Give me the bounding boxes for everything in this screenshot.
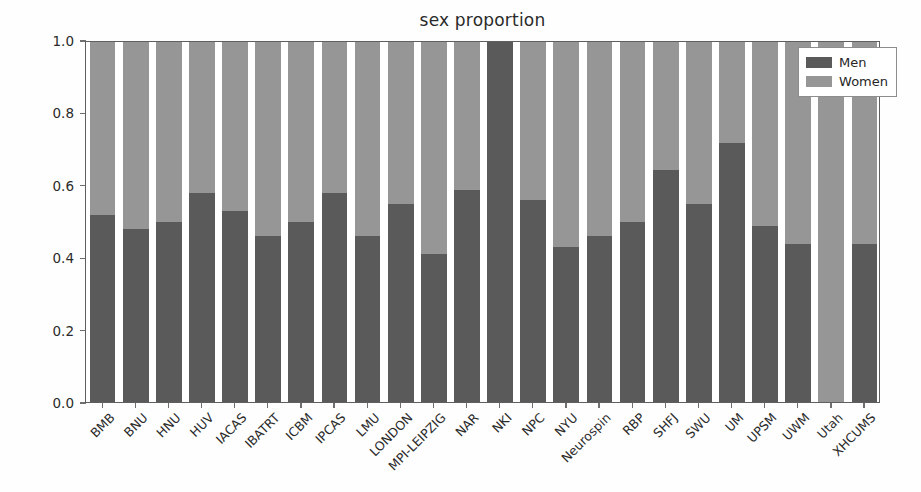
x-tick-mark-HNU xyxy=(168,403,169,408)
x-tick-mark-UM xyxy=(731,403,732,408)
x-tick-mark-UWM xyxy=(797,403,798,408)
x-tick-label-text: NKI xyxy=(489,410,515,436)
x-tick-label-text: HNU xyxy=(153,410,183,440)
x-tick-label-BNU: BNU xyxy=(121,410,151,440)
x-tick-mark-SHFJ xyxy=(665,403,666,408)
x-tick-label-SWU: SWU xyxy=(682,410,713,441)
legend-swatch-men-icon xyxy=(806,57,832,68)
x-tick-label-text: UM xyxy=(722,410,747,435)
legend-swatch-women-icon xyxy=(806,76,832,87)
figure-canvas: sex proportion 0.00.20.40.60.81.0 BMBBNU… xyxy=(0,0,921,492)
x-tick-mark-UPSM xyxy=(764,403,765,408)
x-tick-mark-IBATRT xyxy=(267,403,268,408)
legend-item-men: Men xyxy=(806,53,888,72)
x-tick-label-NPC: NPC xyxy=(519,410,548,439)
x-tick-label-text: UWM xyxy=(779,410,812,443)
x-tick-label-NKI: NKI xyxy=(489,410,515,436)
x-tick-mark-MPI-LEIPZIG xyxy=(433,403,434,408)
x-tick-mark-ICBM xyxy=(300,403,301,408)
x-tick-mark-LMU xyxy=(367,403,368,408)
x-tick-label-NAR: NAR xyxy=(452,410,481,439)
x-tick-label-text: BNU xyxy=(121,410,151,440)
x-tick-mark-NAR xyxy=(466,403,467,408)
x-tick-label-text: IPCAS xyxy=(313,410,349,446)
x-tick-label-UPSM: UPSM xyxy=(744,410,780,446)
x-tick-label-IBATRT: IBATRT xyxy=(242,410,283,451)
x-tick-label-text: ICBM xyxy=(283,410,316,443)
x-tick-label-LMU: LMU xyxy=(353,410,383,440)
x-tick-label-ICBM: ICBM xyxy=(283,410,316,443)
legend-item-women: Women xyxy=(806,72,888,91)
x-tick-mark-NPC xyxy=(532,403,533,408)
x-tick-mark-XHCUMS xyxy=(863,403,864,408)
x-tick-label-text: IBATRT xyxy=(242,410,283,451)
x-tick-mark-NYU xyxy=(565,403,566,408)
x-tick-label-text: UPSM xyxy=(744,410,780,446)
x-tick-label-text: SWU xyxy=(682,410,713,441)
x-tick-mark-IPCAS xyxy=(333,403,334,408)
x-tick-label-BMB: BMB xyxy=(87,410,117,440)
x-tick-mark-BNU xyxy=(135,403,136,408)
legend: Men Women xyxy=(798,47,897,97)
legend-label-men: Men xyxy=(839,56,866,69)
x-tick-label-text: SHFJ xyxy=(650,410,681,441)
x-tick-mark-HUV xyxy=(201,403,202,408)
x-tick-mark-RBP xyxy=(632,403,633,408)
x-tick-label-RBP: RBP xyxy=(619,410,647,438)
x-tick-label-text: BMB xyxy=(87,410,117,440)
x-tick-label-UWM: UWM xyxy=(779,410,812,443)
x-tick-label-HNU: HNU xyxy=(153,410,183,440)
x-axis: BMBBNUHNUHUVIACASIBATRTICBMIPCASLMULONDO… xyxy=(0,0,921,492)
x-tick-mark-Neurospin xyxy=(598,403,599,408)
x-tick-label-text: NPC xyxy=(519,410,548,439)
x-tick-mark-BMB xyxy=(102,403,103,408)
x-tick-label-SHFJ: SHFJ xyxy=(650,410,681,441)
x-tick-mark-Utah xyxy=(830,403,831,408)
x-tick-mark-LONDON xyxy=(400,403,401,408)
x-tick-label-UM: UM xyxy=(722,410,747,435)
legend-label-women: Women xyxy=(839,75,888,88)
x-tick-mark-NKI xyxy=(499,403,500,408)
x-tick-label-text: RBP xyxy=(619,410,647,438)
x-tick-label-text: LMU xyxy=(353,410,383,440)
x-tick-label-IPCAS: IPCAS xyxy=(313,410,349,446)
x-tick-mark-SWU xyxy=(698,403,699,408)
x-tick-mark-IACAS xyxy=(234,403,235,408)
x-tick-label-text: NAR xyxy=(452,410,481,439)
